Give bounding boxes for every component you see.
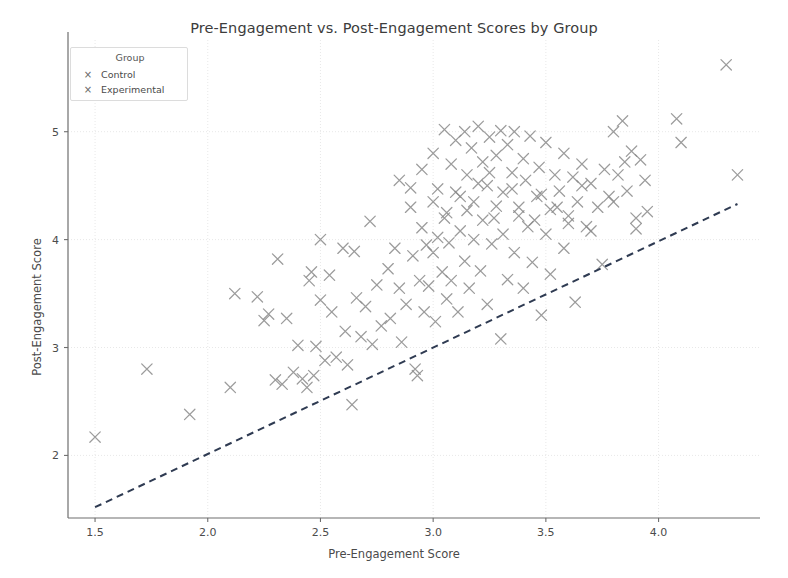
data-point-marker bbox=[331, 352, 341, 362]
data-point-marker bbox=[550, 170, 560, 180]
data-point-marker bbox=[428, 148, 438, 158]
data-point-marker bbox=[484, 132, 494, 142]
data-point-marker bbox=[484, 168, 494, 178]
legend-item-experimental[interactable]: × Experimental bbox=[79, 82, 189, 97]
series-control bbox=[90, 157, 653, 443]
data-point-marker bbox=[441, 294, 451, 304]
data-point-marker bbox=[559, 243, 569, 253]
data-point-marker bbox=[541, 229, 551, 239]
data-point-marker bbox=[432, 232, 442, 242]
data-point-marker bbox=[281, 313, 291, 323]
data-point-marker bbox=[469, 197, 479, 207]
data-point-marker bbox=[462, 170, 472, 180]
data-point-marker bbox=[230, 288, 240, 298]
data-point-marker bbox=[487, 239, 497, 249]
data-point-marker bbox=[545, 269, 555, 279]
data-point-marker bbox=[572, 197, 582, 207]
data-point-marker bbox=[259, 315, 269, 325]
data-point-marker bbox=[482, 299, 492, 309]
data-point-marker bbox=[491, 201, 501, 211]
legend-title: Group bbox=[71, 52, 189, 63]
data-point-marker bbox=[570, 297, 580, 307]
data-point-marker bbox=[586, 178, 596, 188]
data-point-marker bbox=[320, 355, 330, 365]
data-point-marker bbox=[608, 197, 618, 207]
data-point-marker bbox=[534, 162, 544, 172]
data-point-marker bbox=[385, 313, 395, 323]
data-point-marker bbox=[417, 223, 427, 233]
data-point-marker bbox=[482, 180, 492, 190]
y-axis-tick-label: 2 bbox=[52, 449, 59, 462]
data-point-marker bbox=[577, 159, 587, 169]
data-point-marker bbox=[446, 275, 456, 285]
data-point-marker bbox=[327, 307, 337, 317]
y-axis-label: Post-Engagement Score bbox=[30, 187, 44, 427]
data-point-marker bbox=[520, 175, 530, 185]
data-point-marker bbox=[446, 159, 456, 169]
data-point-marker bbox=[559, 148, 569, 158]
data-point-marker bbox=[514, 211, 524, 221]
data-point-marker bbox=[272, 254, 282, 264]
data-point-marker bbox=[732, 170, 742, 180]
data-point-marker bbox=[315, 295, 325, 305]
data-point-marker bbox=[640, 175, 650, 185]
data-point-marker bbox=[349, 246, 359, 256]
series-experimental bbox=[394, 60, 743, 232]
data-point-marker bbox=[342, 360, 352, 370]
data-point-marker bbox=[252, 292, 262, 302]
data-point-marker bbox=[721, 60, 731, 70]
data-point-marker bbox=[419, 307, 429, 317]
data-point-marker bbox=[498, 229, 508, 239]
data-point-marker bbox=[142, 364, 152, 374]
data-point-marker bbox=[518, 153, 528, 163]
reference-trend-line bbox=[95, 204, 737, 507]
data-point-marker bbox=[502, 139, 512, 149]
data-point-marker bbox=[444, 238, 454, 248]
data-point-marker bbox=[552, 202, 562, 212]
data-point-marker bbox=[347, 400, 357, 410]
data-point-marker bbox=[401, 299, 411, 309]
data-point-marker bbox=[185, 409, 195, 419]
data-point-marker bbox=[509, 127, 519, 137]
data-point-marker bbox=[376, 321, 386, 331]
scatter-plot-figure: Pre-Engagement vs. Post-Engagement Score… bbox=[0, 0, 788, 578]
data-point-marker bbox=[225, 382, 235, 392]
data-point-marker bbox=[568, 172, 578, 182]
data-point-marker bbox=[613, 170, 623, 180]
data-point-marker bbox=[306, 267, 316, 277]
data-point-marker bbox=[545, 204, 555, 214]
x-axis-label: Pre-Engagement Score bbox=[0, 547, 788, 561]
data-point-marker bbox=[324, 270, 334, 280]
legend-item-label: Control bbox=[97, 69, 135, 80]
x-axis-tick-label: 1.5 bbox=[86, 526, 104, 539]
data-point-marker bbox=[311, 341, 321, 351]
data-point-marker bbox=[367, 339, 377, 349]
data-point-marker bbox=[514, 202, 524, 212]
data-point-marker bbox=[340, 326, 350, 336]
data-point-marker bbox=[507, 184, 517, 194]
data-point-marker bbox=[270, 375, 280, 385]
data-point-marker bbox=[417, 164, 427, 174]
data-point-marker bbox=[496, 125, 506, 135]
y-axis-tick-label: 4 bbox=[52, 234, 59, 247]
data-point-marker bbox=[599, 164, 609, 174]
data-point-marker bbox=[460, 256, 470, 266]
data-point-marker bbox=[671, 114, 681, 124]
data-point-marker bbox=[525, 131, 535, 141]
data-point-marker bbox=[581, 221, 591, 231]
legend-item-control[interactable]: × Control bbox=[79, 67, 189, 82]
x-marker-icon: × bbox=[79, 85, 97, 95]
data-point-marker bbox=[509, 247, 519, 257]
data-point-marker bbox=[405, 183, 415, 193]
data-point-marker bbox=[475, 266, 485, 276]
data-point-marker bbox=[308, 370, 318, 380]
data-point-marker bbox=[604, 191, 614, 201]
data-point-marker bbox=[527, 257, 537, 267]
data-point-marker bbox=[277, 379, 287, 389]
x-marker-icon: × bbox=[79, 70, 97, 80]
data-point-marker bbox=[631, 224, 641, 234]
data-point-marker bbox=[478, 215, 488, 225]
data-point-marker bbox=[631, 213, 641, 223]
data-point-marker bbox=[383, 264, 393, 274]
x-axis-tick-label: 4.0 bbox=[650, 526, 668, 539]
